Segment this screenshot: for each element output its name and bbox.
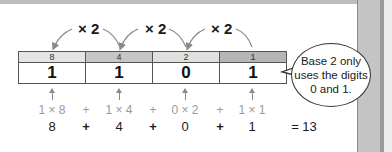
callout-bubble: Base 2 only uses the digits 0 and 1. [291,43,371,107]
digit-row: 1 1 0 1 [19,63,287,84]
callout-line: Base 2 only [294,54,368,68]
digit-cell: 1 [220,63,287,84]
place-value-cell: 2 [153,52,220,63]
plus-sign: + [216,103,223,117]
expansion-term: 1 × 4 [105,103,132,117]
up-arrow-icon [185,90,186,100]
place-value-cell: 8 [19,52,86,63]
place-value-cell: 1 [220,52,287,63]
product-value: 8 [48,119,55,134]
place-value-row: 8 4 2 1 [19,52,287,63]
expansion-term: 0 × 2 [171,103,198,117]
callout-line: 0 and 1. [294,82,368,96]
up-arrow-icon [119,90,120,100]
plus-sign: + [82,119,90,134]
multiplier-label: × 2 [145,20,166,37]
digit-cell: 1 [19,63,86,84]
result-total: = 13 [291,119,317,134]
plus-sign: + [149,119,157,134]
plus-sign: + [149,103,156,117]
binary-place-value-table: 8 4 2 1 1 1 0 1 [18,51,287,84]
multiplier-label: × 2 [211,20,232,37]
plus-sign: + [216,119,224,134]
digit-cell: 0 [153,63,220,84]
expansion-term: 1 × 1 [238,103,265,117]
plus-sign: + [82,103,89,117]
up-arrow-icon [52,90,53,100]
digit-cell: 1 [86,63,153,84]
expansion-term: 1 × 8 [38,103,65,117]
multiplier-label: × 2 [78,20,99,37]
callout-line: uses the digits [294,68,368,82]
up-arrow-icon [252,90,253,100]
product-value: 4 [115,119,122,134]
product-value: 1 [248,119,255,134]
place-value-cell: 4 [86,52,153,63]
product-value: 0 [181,119,188,134]
